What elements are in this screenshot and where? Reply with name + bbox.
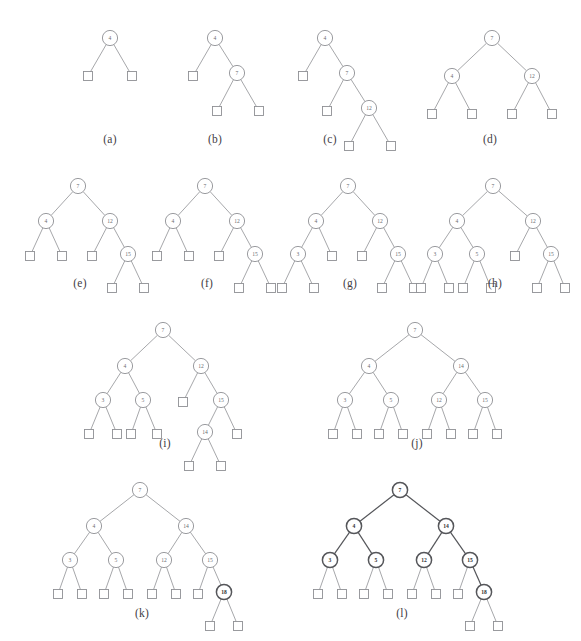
- tree-edge: [365, 567, 373, 590]
- tree-edge: [105, 567, 113, 590]
- leaf-node-square: [84, 72, 93, 81]
- tree-edge: [73, 567, 81, 590]
- tree-edge: [472, 599, 481, 622]
- tree-edge: [349, 372, 364, 394]
- node-14-label: 14: [202, 429, 208, 435]
- tree-edge: [360, 495, 394, 522]
- tree-edge: [329, 44, 343, 66]
- leaf-node-square: [299, 72, 308, 81]
- tree-edge: [428, 407, 436, 430]
- tree-edge: [439, 227, 453, 247]
- leaf-node-square: [148, 590, 157, 599]
- node-15-label: 15: [207, 557, 213, 563]
- subfigure-a: 4: [110, 28, 111, 29]
- leaf-node-square: [511, 252, 520, 261]
- leaf-node-square: [469, 430, 478, 439]
- leaf-node-square: [217, 462, 226, 471]
- node-3-label: 3: [102, 397, 105, 403]
- node-7-label: 7: [236, 70, 239, 76]
- tree-edge: [498, 43, 527, 71]
- node-3-label: 3: [434, 251, 437, 257]
- subfigure-caption-k: (k): [107, 607, 177, 619]
- edge-group: [90, 45, 129, 73]
- tree-edge: [348, 407, 356, 430]
- tree-edge: [380, 407, 388, 430]
- tree-edge: [90, 45, 106, 73]
- tree-edge: [94, 228, 106, 252]
- tree-edge: [450, 532, 465, 554]
- leaf-node-square: [358, 252, 367, 261]
- node-15-label: 15: [218, 397, 224, 403]
- node-14-label: 14: [443, 523, 449, 529]
- tree-edge: [514, 83, 528, 110]
- subfigure-j: 7414351215: [415, 320, 416, 321]
- tree-edge: [221, 228, 233, 252]
- tree-graphic-h: 74123515: [493, 178, 494, 179]
- tree-edge: [488, 407, 496, 430]
- tree-edge: [213, 567, 221, 585]
- node-3-label: 3: [344, 397, 347, 403]
- leaf-node-square: [454, 590, 463, 599]
- tree-edge: [413, 567, 421, 590]
- leaf-node-square: [140, 284, 149, 293]
- tree-edge: [208, 407, 217, 425]
- tree-edge: [443, 372, 457, 393]
- node-4-label: 4: [214, 35, 217, 41]
- edge-group: [32, 192, 142, 284]
- tree-edge: [146, 407, 155, 430]
- tree-edge: [456, 83, 470, 110]
- tree-graphic-d: 7412: [492, 28, 493, 29]
- node-7-label: 7: [491, 35, 494, 41]
- tree-edge: [100, 495, 134, 522]
- node-12-label: 12: [436, 397, 442, 403]
- node-18-label: 18: [481, 589, 487, 595]
- tree-edge: [384, 228, 395, 248]
- subfigure-caption-j: (j): [382, 437, 452, 449]
- tree-edge: [98, 532, 112, 553]
- leaf-node-square: [432, 590, 441, 599]
- leaf-node-square: [26, 252, 35, 261]
- leaf-node-square: [215, 252, 224, 261]
- tree-edge: [114, 261, 125, 284]
- node-7-label: 7: [347, 183, 350, 189]
- subfigure-caption-f: (f): [172, 277, 242, 289]
- tree-graphic-k: 741435121518: [140, 480, 141, 481]
- leaf-node-square: [561, 284, 570, 293]
- node-4-label: 4: [456, 218, 459, 224]
- node-15-label: 15: [125, 251, 131, 257]
- edge-group: [159, 192, 269, 284]
- leaf-node-square: [384, 590, 393, 599]
- tree-edge: [199, 567, 207, 590]
- leaf-node-square: [172, 590, 181, 599]
- tree-edge: [499, 191, 528, 216]
- tree-edge: [131, 261, 142, 284]
- node-15-label: 15: [482, 397, 488, 403]
- leaf-node-square: [255, 107, 264, 116]
- leaf-node-square: [213, 107, 222, 116]
- tree-edge: [334, 532, 349, 554]
- leaf-node-square: [408, 590, 417, 599]
- node-7-label: 7: [346, 70, 349, 76]
- node-4-label: 4: [451, 73, 454, 79]
- tree-edge: [373, 372, 387, 393]
- edge-group: [423, 191, 564, 284]
- tree-edge: [258, 261, 269, 284]
- tree-edge: [146, 495, 180, 522]
- tree-edge: [178, 192, 200, 216]
- tree-edge: [153, 567, 161, 590]
- tree-edge: [74, 532, 89, 554]
- tree-edge: [351, 79, 365, 101]
- node-4-label: 4: [93, 523, 96, 529]
- node-5-label: 5: [390, 397, 393, 403]
- subfigure-k: 741435121518: [140, 480, 141, 481]
- leaf-node-square: [338, 590, 347, 599]
- node-14-label: 14: [458, 363, 464, 369]
- tree-edge: [119, 567, 127, 590]
- leaf-node-square: [234, 622, 243, 631]
- tree-edge: [334, 407, 342, 430]
- tree-graphic-c: 4712: [325, 28, 326, 29]
- subfigure-caption-g: (g): [315, 277, 385, 289]
- tree-edge: [107, 372, 121, 393]
- tree-edge: [212, 599, 221, 622]
- leaf-node-square: [417, 284, 426, 293]
